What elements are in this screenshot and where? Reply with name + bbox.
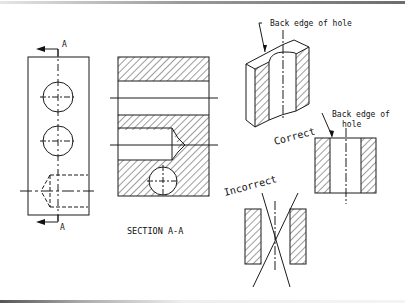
cut-label-top: A (62, 40, 67, 49)
correct-callout-line1: Back edge of (332, 110, 390, 119)
incorrect-label: Incorrect (223, 173, 278, 198)
technical-drawing: A A SECTION A-A Back edge of hole Back e… (0, 0, 405, 304)
front-view (20, 46, 94, 225)
cut-arrow-top-icon (36, 46, 45, 52)
cut-label-bottom: A (60, 223, 65, 232)
section-view (110, 57, 218, 197)
correct-callout-line2: hole (342, 120, 361, 129)
section-caption: SECTION A-A (127, 226, 183, 236)
isometric-view (246, 23, 309, 127)
incorrect-view (245, 193, 306, 287)
cut-arrow-bottom-icon (36, 219, 45, 225)
correct-label: Correct (273, 125, 317, 147)
iso-callout: Back edge of hole (270, 19, 352, 28)
